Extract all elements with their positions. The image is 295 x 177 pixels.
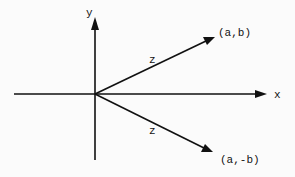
x-axis: x [14, 89, 281, 101]
vector-z: z (a,b) [95, 27, 251, 94]
x-axis-label: x [274, 89, 281, 101]
vector-z-label: z [149, 54, 156, 66]
x-axis-arrowhead-icon [255, 90, 267, 98]
diagram-canvas: x y z (a,b) z (a,-b) [0, 0, 295, 177]
vector-z-line [95, 41, 206, 94]
point-a-neg-b-label: (a,-b) [220, 154, 260, 166]
vector-z-conjugate-line [95, 94, 204, 148]
y-axis-label: y [86, 7, 93, 19]
y-axis: y [86, 7, 99, 160]
vector-z-conjugate: z (a,-b) [95, 94, 260, 166]
point-a-b-label: (a,b) [218, 27, 251, 39]
vector-z-conjugate-label: z [149, 125, 156, 137]
